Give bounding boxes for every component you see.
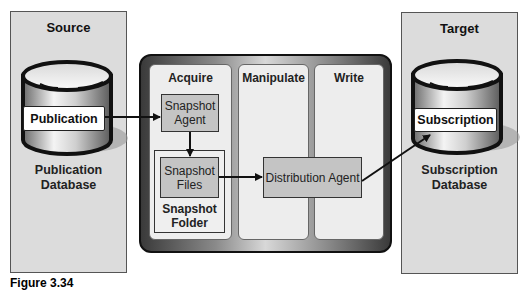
arrow-distribution-to-subscription bbox=[362, 135, 430, 181]
figure-caption: Figure 3.34 bbox=[10, 276, 73, 290]
